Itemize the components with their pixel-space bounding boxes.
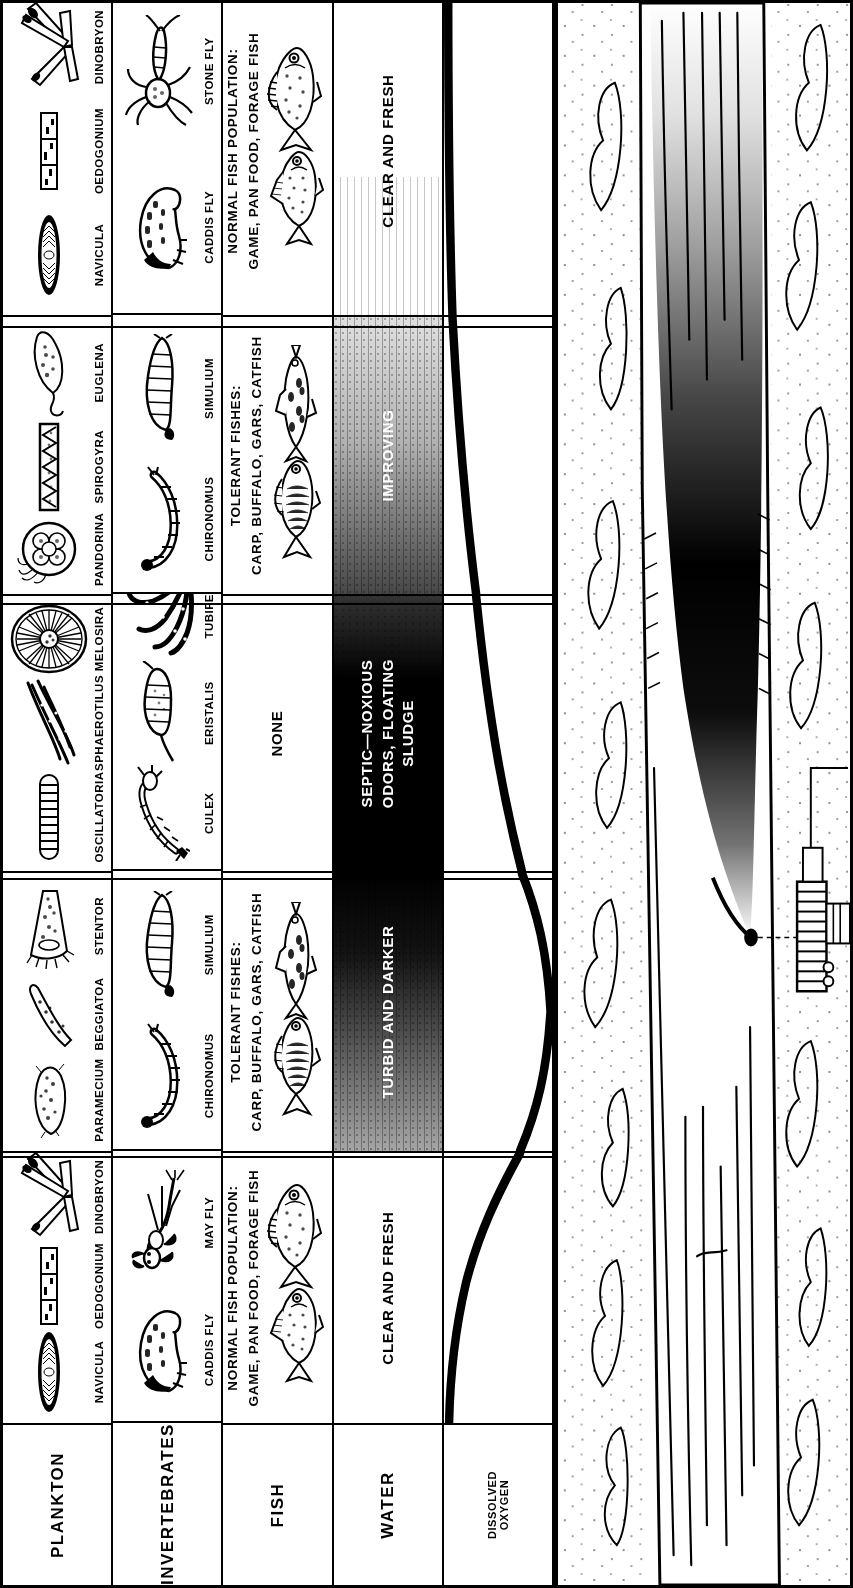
diagram-stage: PLANKTON NAVICULA xyxy=(0,0,853,1588)
zone-divider-3 xyxy=(0,603,558,605)
stream-pollution-diagram: PLANKTON NAVICULA xyxy=(0,0,853,1588)
zone-dividers xyxy=(0,0,853,1588)
zone-divider-1 xyxy=(0,1156,558,1158)
zone-divider-2 xyxy=(0,878,558,880)
zone-divider-4 xyxy=(0,326,558,328)
